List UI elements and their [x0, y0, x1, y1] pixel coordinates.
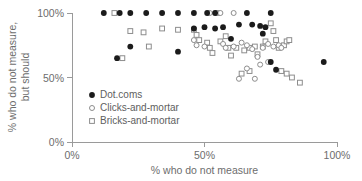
y-tick-label: 0% — [49, 136, 64, 148]
data-point — [204, 10, 210, 16]
data-point — [191, 10, 197, 16]
data-point — [239, 71, 244, 76]
data-point — [244, 10, 250, 16]
data-point — [120, 56, 125, 61]
data-point — [279, 45, 284, 50]
chart-legend: Dot.comsClicks-and-mortarBricks-and-mort… — [89, 89, 180, 126]
data-point — [146, 44, 151, 49]
legend-label: Clicks-and-mortar — [100, 102, 180, 113]
data-point — [284, 71, 289, 76]
data-point — [194, 43, 199, 48]
data-point — [268, 21, 273, 26]
data-point — [175, 10, 181, 16]
data-point — [176, 27, 181, 32]
y-axis-title-line2: but should — [19, 53, 31, 102]
data-point — [260, 31, 266, 37]
data-point — [279, 69, 284, 74]
data-point — [191, 26, 197, 32]
data-point — [271, 29, 276, 34]
data-point — [143, 10, 149, 16]
data-point — [194, 33, 199, 38]
x-tick-label: 100% — [324, 149, 351, 161]
y-tick-label: 100% — [37, 7, 64, 19]
data-point — [244, 66, 249, 71]
data-point — [257, 23, 263, 29]
data-point — [242, 48, 247, 53]
y-axis-title-line1: % who do not measure, — [6, 22, 18, 132]
legend-marker — [89, 92, 95, 98]
data-point — [271, 44, 276, 49]
data-point — [212, 26, 218, 32]
data-point — [114, 55, 120, 61]
data-point — [298, 80, 303, 85]
data-point — [127, 10, 133, 16]
data-point — [255, 54, 260, 59]
data-point — [159, 10, 165, 16]
data-point — [160, 26, 165, 31]
data-points — [101, 10, 327, 85]
data-point — [266, 41, 271, 46]
data-point — [112, 11, 117, 16]
data-point — [117, 10, 123, 16]
data-point — [290, 75, 295, 80]
data-point — [175, 49, 181, 55]
data-point — [202, 24, 208, 30]
data-point — [141, 30, 146, 35]
legend-marker — [90, 119, 95, 124]
data-point — [263, 24, 269, 30]
data-point — [236, 76, 241, 81]
legend-label: Dot.coms — [100, 89, 142, 100]
data-point — [207, 45, 212, 50]
data-point — [229, 53, 234, 58]
x-tick-label: 50% — [194, 149, 215, 161]
data-point — [274, 38, 279, 43]
x-axis-title: % who do not measure — [151, 164, 259, 176]
y-tick-label: 50% — [43, 72, 64, 84]
data-point — [268, 59, 274, 65]
data-point — [101, 10, 107, 16]
x-tick-label: 0% — [64, 149, 79, 161]
data-point — [210, 51, 215, 56]
data-point — [260, 45, 265, 50]
data-point — [218, 11, 223, 16]
data-point — [127, 44, 133, 50]
data-point — [220, 24, 226, 30]
data-point — [191, 38, 196, 43]
data-point — [128, 29, 133, 34]
data-point — [252, 76, 257, 81]
legend-label: Bricks-and-mortar — [100, 115, 180, 126]
data-point — [287, 38, 292, 43]
data-point — [321, 59, 327, 65]
data-point — [202, 44, 207, 49]
data-point — [231, 44, 236, 49]
data-point — [273, 67, 279, 73]
data-point — [197, 38, 202, 43]
data-point — [212, 10, 218, 16]
data-point — [258, 62, 263, 67]
legend-marker — [90, 106, 95, 111]
data-point — [236, 22, 242, 28]
data-point — [223, 34, 228, 39]
data-point — [239, 40, 244, 45]
plot-canvas: 0%50%100%0%50%100% Dot.comsClicks-and-mo… — [0, 0, 362, 181]
data-point — [249, 22, 255, 28]
data-point — [250, 47, 255, 52]
data-point — [244, 43, 249, 48]
data-point — [231, 11, 236, 16]
data-point — [228, 36, 234, 42]
data-point — [268, 10, 274, 16]
scatter-chart-figure: 0%50%100%0%50%100% Dot.comsClicks-and-mo… — [0, 0, 362, 181]
data-point — [223, 45, 228, 50]
